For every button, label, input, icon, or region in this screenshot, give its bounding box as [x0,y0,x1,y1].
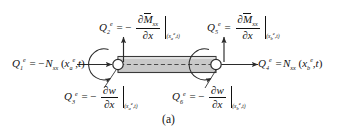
label-q5: Q5e = ∂Mxx ∂x (xbe,t) [207,14,279,42]
beam-element-force-diagram: Q2e =− ∂Mxx ∂x (xae,t) Q5e = ∂Mxx ∂x (xb… [0,0,337,132]
node-a [113,59,123,69]
label-q6: Q6e =− ∂w ∂x (xbe,t) [172,85,245,111]
label-q1: Q1e =−Nxx (xae,t) [12,57,85,71]
label-q4: Q4e =Nxx (xbe,t) [258,57,322,71]
label-q2: Q2e =− ∂Mxx ∂x (xae,t) [99,14,179,42]
label-q3: Q3e =− ∂w ∂x (xae,t) [64,85,137,111]
figure-caption: (a) [0,113,337,125]
beam-body [118,57,216,73]
node-b [211,59,221,69]
